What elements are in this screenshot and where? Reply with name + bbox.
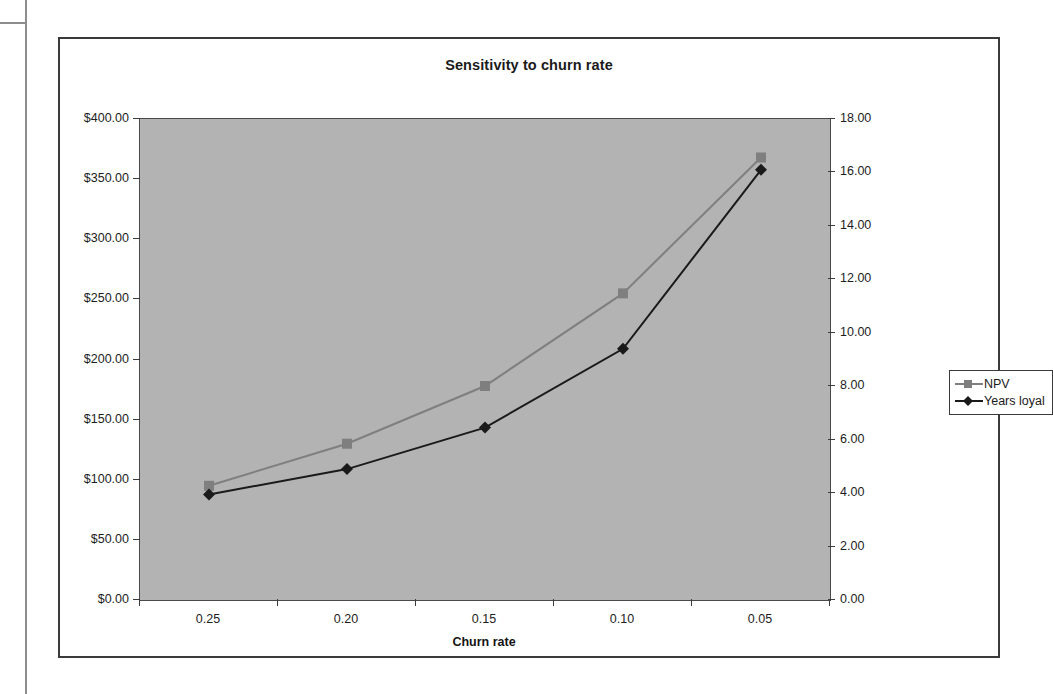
y-axis-right-tick-label: 18.00 xyxy=(840,111,910,125)
series-data-point[interactable] xyxy=(342,439,352,449)
y-axis-right-tick-label: 0.00 xyxy=(840,592,910,606)
y-axis-right-tick-label: 14.00 xyxy=(840,218,910,232)
y-axis-right-tick-label: 4.00 xyxy=(840,485,910,499)
x-axis-tick-label: 0.15 xyxy=(472,612,496,626)
chart-legend: NPV Years loyal xyxy=(949,370,1053,415)
chart-container: Sensitivity to churn rate $0.00$50.00$10… xyxy=(58,37,1000,658)
y-axis-left-tick-label: $300.00 xyxy=(49,231,129,245)
series-data-point[interactable] xyxy=(341,463,353,475)
x-axis-tick-label: 0.20 xyxy=(334,612,358,626)
y-axis-left-tick-label: $400.00 xyxy=(49,111,129,125)
plot-series-svg xyxy=(140,119,830,600)
y-axis-left-tick-label: $150.00 xyxy=(49,412,129,426)
y-axis-left-tick-label: $50.00 xyxy=(49,532,129,546)
series-line-npv xyxy=(204,153,766,491)
y-axis-right-tick-label: 12.00 xyxy=(840,271,910,285)
page-margin-rule-top xyxy=(0,22,26,24)
y-axis-left-tick-label: $0.00 xyxy=(49,592,129,606)
x-axis-tick-label: 0.10 xyxy=(610,612,634,626)
legend-swatch-years-loyal xyxy=(955,395,983,407)
y-axis-right-tick-label: 2.00 xyxy=(840,539,910,553)
y-axis-left-tick-label: $200.00 xyxy=(49,352,129,366)
series-data-point[interactable] xyxy=(756,153,766,163)
y-axis-right-tick-label: 16.00 xyxy=(840,164,910,178)
y-axis-right-tick-label: 8.00 xyxy=(840,378,910,392)
y-axis-left-tick-label: $100.00 xyxy=(49,472,129,486)
plot-area xyxy=(139,118,831,601)
series-data-point[interactable] xyxy=(480,381,490,391)
x-axis-tick-label: 0.25 xyxy=(196,612,220,626)
legend-label-npv: NPV xyxy=(984,377,1010,391)
legend-swatch-npv xyxy=(955,378,983,390)
y-axis-right-tick-label: 10.00 xyxy=(840,325,910,339)
page-margin-rule-left xyxy=(25,0,27,694)
legend-item-npv[interactable]: NPV xyxy=(955,375,1045,392)
x-axis-title: Churn rate xyxy=(139,635,829,649)
legend-label-years-loyal: Years loyal xyxy=(984,394,1045,408)
series-data-point[interactable] xyxy=(618,288,628,298)
y-axis-left-tick-label: $250.00 xyxy=(49,291,129,305)
chart-title: Sensitivity to churn rate xyxy=(60,57,998,73)
series-data-point[interactable] xyxy=(479,422,491,434)
series-line-years-loyal xyxy=(203,164,767,501)
legend-item-years-loyal[interactable]: Years loyal xyxy=(955,392,1045,409)
series-polyline xyxy=(209,170,761,495)
series-polyline xyxy=(209,158,761,486)
y-axis-right-tick-label: 6.00 xyxy=(840,432,910,446)
y-axis-left-tick-label: $350.00 xyxy=(49,171,129,185)
x-axis-tick-label: 0.05 xyxy=(748,612,772,626)
